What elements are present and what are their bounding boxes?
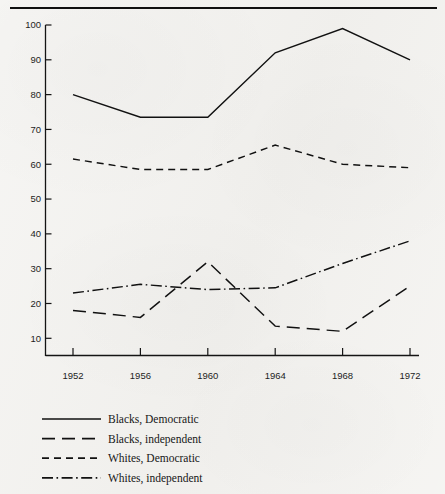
x-axis-ticks: 195219561960196419681972 (62, 348, 420, 381)
y-tick-label: 80 (30, 89, 41, 100)
y-tick-label: 30 (30, 263, 41, 274)
series-line-0 (73, 28, 410, 117)
y-tick-label: 50 (30, 193, 41, 204)
y-tick-label: 40 (30, 228, 41, 239)
y-tick-label: 20 (30, 298, 41, 309)
x-tick-label: 1964 (265, 370, 286, 381)
series-line-1 (73, 262, 410, 332)
legend-label-1: Blacks, independent (108, 433, 202, 446)
legend-label-2: Whites, Democratic (108, 452, 200, 465)
x-tick-label: 1968 (332, 370, 353, 381)
y-tick-label: 70 (30, 124, 41, 135)
y-tick-label: 90 (30, 54, 41, 65)
line-chart: 102030405060708090100 195219561960196419… (0, 0, 445, 494)
y-tick-label: 60 (30, 159, 41, 170)
series-line-2 (73, 145, 410, 169)
legend-label-3: Whites, independent (108, 472, 203, 485)
chart-legend: Blacks, DemocraticBlacks, independentWhi… (42, 413, 203, 485)
x-tick-label: 1960 (197, 370, 218, 381)
axes (46, 25, 420, 356)
x-tick-label: 1956 (130, 370, 151, 381)
x-tick-label: 1972 (399, 370, 420, 381)
legend-label-0: Blacks, Democratic (108, 413, 199, 426)
y-tick-label: 100 (25, 19, 41, 30)
y-axis-ticks: 102030405060708090100 (25, 19, 51, 343)
figure-container: 102030405060708090100 195219561960196419… (0, 0, 445, 494)
data-series-group (73, 28, 410, 331)
y-tick-label: 10 (30, 333, 41, 344)
x-tick-label: 1952 (62, 370, 83, 381)
series-line-3 (73, 241, 410, 293)
